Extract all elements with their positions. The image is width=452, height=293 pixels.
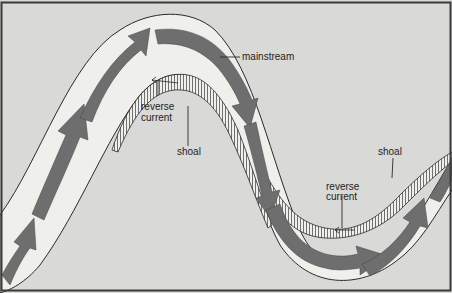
label-reverse-current-top-1: reverse <box>141 101 175 112</box>
label-mainstream: mainstream <box>242 51 294 62</box>
river-meander-diagram: mainstream reverse current shoal reverse… <box>0 0 452 293</box>
label-shoal-bottom: shoal <box>378 146 402 157</box>
label-reverse-current-top-2: current <box>141 112 172 123</box>
label-reverse-current-bottom-2: current <box>326 191 357 202</box>
label-shoal-top: shoal <box>177 146 201 157</box>
diagram-canvas: mainstream reverse current shoal reverse… <box>0 0 452 293</box>
leader-shoal-bottom <box>392 158 393 178</box>
